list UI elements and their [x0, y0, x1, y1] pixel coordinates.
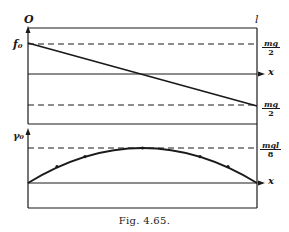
- upper-mg2-label: mg 2: [262, 39, 280, 56]
- fraction-denominator: 2: [268, 48, 274, 56]
- diagram-canvas: [0, 0, 289, 232]
- x-axis-top-arrow: [258, 72, 265, 77]
- x-axis-top-label: x: [268, 66, 274, 77]
- fraction-denominator: 2: [268, 109, 274, 117]
- gamma0-label: γ₀: [13, 130, 24, 141]
- f0-axis-arrow: [26, 26, 31, 33]
- length-label: l: [255, 13, 259, 26]
- moment-parabola: [28, 148, 257, 183]
- origin-label: O: [24, 13, 34, 26]
- figure-caption: Fig. 4.65.: [0, 215, 289, 226]
- gamma0-axis-arrow: [26, 128, 31, 135]
- fraction-denominator: 8: [268, 150, 274, 158]
- lower-mg2-label: mg 2: [262, 100, 280, 117]
- max-mgl8-label: mgl 8: [260, 141, 281, 158]
- x-axis-bottom-arrow: [258, 181, 265, 186]
- x-axis-bottom-label: x: [268, 175, 274, 186]
- f0-label: f₀: [13, 38, 23, 51]
